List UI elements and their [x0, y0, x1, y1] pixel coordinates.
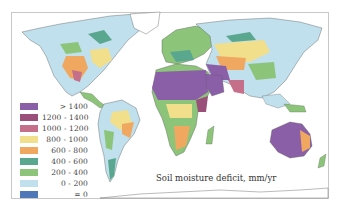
legend-label: 600 - 800 — [42, 146, 88, 155]
legend-item: 600 - 800 — [20, 145, 90, 156]
map-legend: > 1400 1200 - 1400 1000 - 1200 800 - 100… — [20, 101, 90, 200]
legend-swatch — [20, 180, 38, 187]
legend-item: 400 - 600 — [20, 156, 90, 167]
legend-item: 1000 - 1200 — [20, 123, 90, 134]
legend-swatch — [20, 103, 38, 110]
legend-item: = 0 — [20, 189, 90, 200]
legend-swatch — [20, 147, 38, 154]
map-title: Soil moisture deficit, mm/yr — [156, 173, 276, 183]
legend-label: 800 - 1000 — [42, 135, 88, 144]
legend-label: 1200 - 1400 — [42, 113, 88, 122]
legend-item: 1200 - 1400 — [20, 112, 90, 123]
legend-item: 0 - 200 — [20, 178, 90, 189]
legend-item: 200 - 400 — [20, 167, 90, 178]
legend-swatch — [20, 191, 38, 198]
legend-label: 400 - 600 — [42, 157, 88, 166]
legend-label: 0 - 200 — [42, 179, 88, 188]
legend-swatch — [20, 169, 38, 176]
legend-label: > 1400 — [42, 102, 88, 111]
legend-label: = 0 — [42, 190, 88, 199]
north-america — [22, 14, 150, 96]
legend-item: > 1400 — [20, 101, 90, 112]
legend-swatch — [20, 158, 38, 165]
legend-item: 800 - 1000 — [20, 134, 90, 145]
legend-swatch — [20, 125, 38, 132]
legend-label: 1000 - 1200 — [42, 124, 88, 133]
legend-label: 200 - 400 — [42, 168, 88, 177]
legend-swatch — [20, 114, 38, 121]
legend-swatch — [20, 136, 38, 143]
antarctica — [100, 188, 328, 198]
